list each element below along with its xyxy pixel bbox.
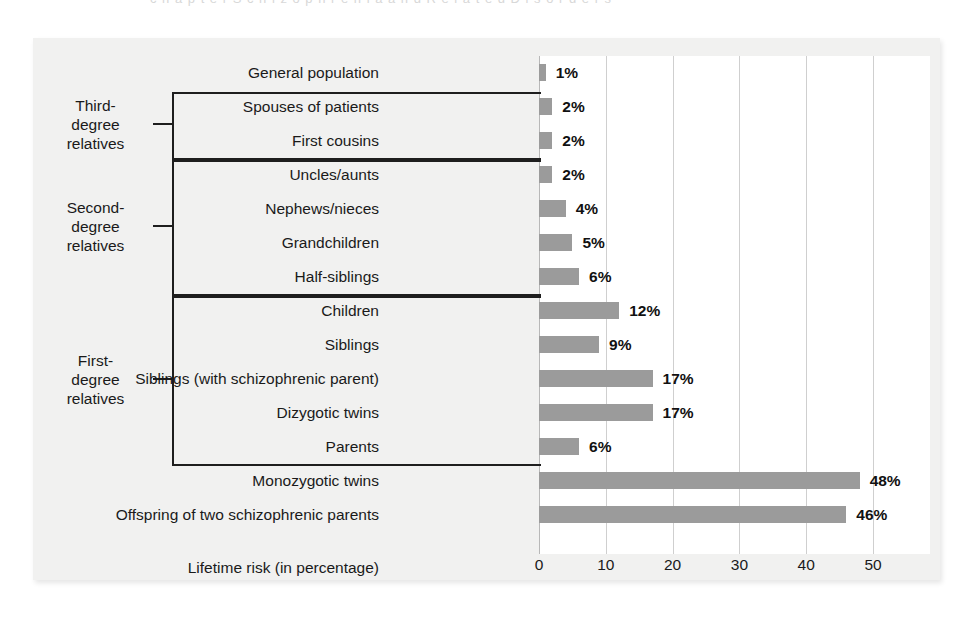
x-tick-label-50: 50 (853, 556, 893, 574)
chart-row: Offspring of two schizophrenic parents46… (33, 498, 940, 532)
bar-value-label: 12% (629, 294, 660, 328)
bar (539, 166, 552, 183)
chart-row: Uncles/aunts2% (33, 158, 940, 192)
chart-row: Parents6% (33, 430, 940, 464)
bar (539, 438, 579, 455)
bar (539, 506, 846, 523)
chart-row: First cousins2% (33, 124, 940, 158)
row-label: Children (321, 294, 379, 328)
bar-value-label: 46% (856, 498, 887, 532)
bar (539, 370, 653, 387)
chart-panel: Third-degreerelativesSecond-degreerelati… (33, 38, 940, 580)
row-label: Parents (326, 430, 379, 464)
bar (539, 268, 579, 285)
chart-row: Spouses of patients2% (33, 90, 940, 124)
bar-value-label: 4% (576, 192, 598, 226)
row-label: First cousins (292, 124, 379, 158)
chart-row: Siblings9% (33, 328, 940, 362)
chart-row: Siblings (with schizophrenic parent)17% (33, 362, 940, 396)
bar-value-label: 2% (562, 158, 584, 192)
row-label: Offspring of two schizophrenic parents (116, 498, 379, 532)
x-tick-label-40: 40 (786, 556, 826, 574)
bar-value-label: 17% (663, 362, 694, 396)
chart-row: Half-siblings6% (33, 260, 940, 294)
x-axis-label: Lifetime risk (in percentage) (188, 554, 379, 582)
bar (539, 132, 552, 149)
row-label: Siblings (325, 328, 379, 362)
row-label: Half-siblings (295, 260, 379, 294)
row-label: Monozygotic twins (252, 464, 379, 498)
row-label: Siblings (with schizophrenic parent) (135, 362, 379, 396)
x-tick-label-10: 10 (586, 556, 626, 574)
bar-value-label: 9% (609, 328, 631, 362)
bar-value-label: 5% (582, 226, 604, 260)
bar-value-label: 2% (562, 124, 584, 158)
bar-value-label: 6% (589, 430, 611, 464)
chart-row: General population1% (33, 56, 940, 90)
bar (539, 234, 572, 251)
bar-value-label: 2% (562, 90, 584, 124)
bar-value-label: 1% (556, 56, 578, 90)
chart-row: Grandchildren5% (33, 226, 940, 260)
row-label: Nephews/nieces (265, 192, 379, 226)
ghost-text: c h a p t e r S c h i z o p h r e n i a … (150, 0, 612, 6)
bar (539, 404, 653, 421)
row-label: Spouses of patients (243, 90, 379, 124)
row-label: Dizygotic twins (277, 396, 380, 430)
bar (539, 302, 619, 319)
bar-value-label: 17% (663, 396, 694, 430)
bar (539, 98, 552, 115)
x-tick-label-30: 30 (719, 556, 759, 574)
bar-value-label: 6% (589, 260, 611, 294)
chart-row: Children12% (33, 294, 940, 328)
x-tick-label-0: 0 (519, 556, 559, 574)
bar (539, 472, 860, 489)
bar (539, 336, 599, 353)
bar (539, 200, 566, 217)
row-label: General population (248, 56, 379, 90)
row-label: Uncles/aunts (289, 158, 379, 192)
chart-row: Nephews/nieces4% (33, 192, 940, 226)
bar (539, 64, 546, 81)
chart-row: Monozygotic twins48% (33, 464, 940, 498)
row-label: Grandchildren (282, 226, 379, 260)
x-tick-label-20: 20 (653, 556, 693, 574)
bar-value-label: 48% (870, 464, 901, 498)
page-header-ghost-text: c h a p t e r S c h i z o p h r e n i a … (0, 0, 980, 16)
chart-row: Dizygotic twins17% (33, 396, 940, 430)
